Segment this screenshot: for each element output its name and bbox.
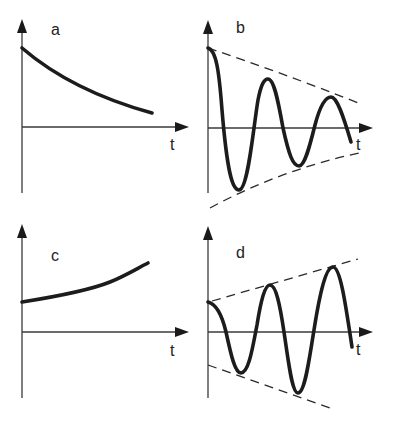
y-axis-arrow-icon [203,20,213,34]
t-axis-label: t [170,342,175,359]
growth-curve [22,263,148,302]
y-axis-arrow-icon [17,19,27,33]
panel-label-a: a [51,21,60,38]
panel-c: c t [17,224,189,398]
x-axis-arrow-icon [359,123,373,133]
y-axis-arrow-icon [203,226,213,240]
decay-curve [22,48,152,113]
x-axis-arrow-icon [359,327,373,337]
panel-b: b t [203,19,373,208]
t-axis-label: t [356,341,361,358]
t-axis-label: t [356,136,361,153]
panel-label-c: c [51,247,59,264]
figure-canvas: a t b t c t d t [0,0,395,438]
panel-a: a t [17,19,189,193]
panel-d: d t [203,226,373,409]
lower-envelope [208,365,333,409]
upper-envelope [212,259,358,301]
t-axis-label: t [170,136,175,153]
upper-envelope [208,48,361,104]
growing-oscillation-curve [208,267,352,393]
damped-oscillation-curve [208,48,351,190]
y-axis-arrow-icon [17,224,27,238]
x-axis-arrow-icon [175,122,189,132]
panel-label-d: d [236,244,245,261]
panel-label-b: b [236,19,245,36]
x-axis-arrow-icon [175,327,189,337]
